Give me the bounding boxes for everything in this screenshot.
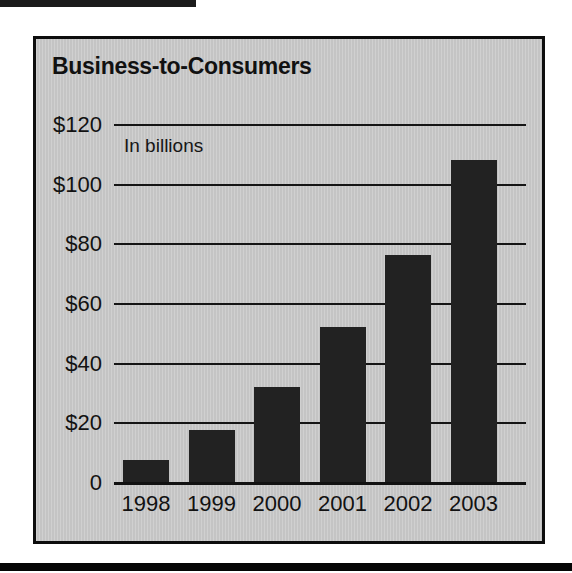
top-rule [0,0,196,7]
axis-baseline [114,482,526,485]
bar-2001 [320,327,366,482]
y-tick-label: $20 [16,410,102,436]
bar-1999 [189,430,235,482]
bar-2000 [254,387,300,482]
y-tick-label: $100 [16,172,102,198]
y-tick-label: 0 [16,470,102,496]
x-tick-label-2003: 2003 [436,491,512,517]
bar-2003 [451,160,497,482]
bar-series [114,39,526,482]
chart-panel: Business-to-Consumers 0$20$40$60$80$100$… [33,36,545,544]
y-tick-label: $40 [16,351,102,377]
bar-2002 [385,255,431,482]
bottom-rule [0,563,572,571]
plot-area: 0$20$40$60$80$100$120 In billions 199819… [36,39,542,541]
bar-1998 [123,460,169,482]
y-tick-label: $80 [16,231,102,257]
y-tick-label: $120 [16,112,102,138]
y-tick-label: $60 [16,291,102,317]
